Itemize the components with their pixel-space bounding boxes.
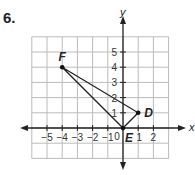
x-tick-label: 1: [136, 132, 142, 143]
x-tick-label: −5: [41, 132, 53, 143]
x-tick-label: 2: [151, 132, 157, 143]
point-label-F: F: [59, 50, 67, 64]
x-axis-left-arrow-icon: [20, 125, 28, 131]
y-tick-label: 4: [111, 62, 117, 73]
y-axis-down-arrow-icon: [120, 162, 126, 170]
point-label-D: D: [144, 106, 153, 120]
x-axis-right-arrow-icon: [178, 125, 186, 131]
origin-label: 0: [114, 131, 120, 142]
x-tick-label: −1: [102, 132, 114, 143]
x-axis-label: x: [188, 121, 195, 133]
y-tick-label: 3: [111, 77, 117, 88]
point-D: [136, 111, 141, 116]
point-label-E: E: [125, 131, 134, 145]
coordinate-plane: xy−5−4−3−2−121012345FDE: [0, 0, 195, 175]
y-axis-label: y: [119, 6, 127, 18]
x-tick-label: −2: [87, 132, 99, 143]
x-tick-label: −3: [72, 132, 84, 143]
x-tick-label: −4: [56, 132, 68, 143]
y-tick-label: 5: [111, 47, 117, 58]
point-E: [121, 126, 126, 131]
point-F: [60, 65, 65, 70]
